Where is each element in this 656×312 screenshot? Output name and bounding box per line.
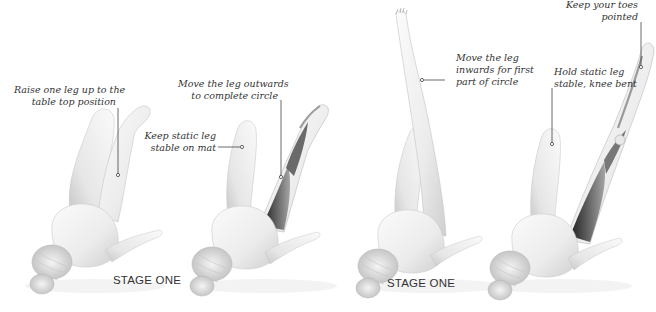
stage-label-2: STAGE ONE (387, 277, 455, 289)
annotation-raise-leg: Raise one leg up to the table top positi… (14, 84, 116, 108)
annotation-line: stable on mat (130, 142, 216, 154)
stage-label-1: STAGE ONE (113, 274, 181, 286)
annotation-line: Move the leg outwards (178, 78, 278, 90)
annotation-line: inwards for first (456, 64, 556, 76)
annotation-hold-static-leg: Hold static leg stable, knee bent (554, 66, 654, 90)
annotation-line: Move the leg (456, 52, 556, 64)
annotation-line: Keep static leg (130, 130, 216, 142)
annotation-move-inwards: Move the leg inwards for first part of c… (456, 52, 556, 88)
annotation-line: pointed (560, 11, 638, 23)
annotation-line: to complete circle (178, 90, 278, 102)
annotation-line: part of circle (456, 76, 556, 88)
annotation-keep-static-leg: Keep static leg stable on mat (130, 130, 216, 154)
annotation-line: Hold static leg (554, 66, 654, 78)
annotation-line: Keep your toes (560, 0, 638, 11)
annotation-toes-pointed: Keep your toes pointed (560, 0, 638, 23)
annotation-move-outwards: Move the leg outwards to complete circle (178, 78, 278, 102)
exercise-diagram: Raise one leg up to the table top positi… (0, 0, 656, 312)
annotation-line: Raise one leg up to the (14, 84, 116, 96)
annotation-line: table top position (14, 96, 116, 108)
figures-layer (0, 0, 656, 312)
annotation-line: stable, knee bent (554, 78, 654, 90)
